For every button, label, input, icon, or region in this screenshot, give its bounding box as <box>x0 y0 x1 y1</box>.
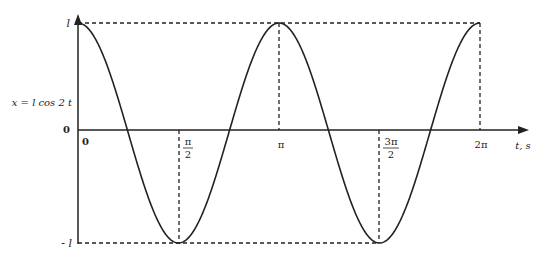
tick-pi-half-den: 2 <box>185 149 191 160</box>
tick-pi-label: π <box>278 139 285 150</box>
dashed-guides <box>78 23 480 243</box>
y-top-label: l <box>66 17 70 30</box>
origin-label: 0 <box>82 136 89 147</box>
tick-two-pi-label: 2π <box>475 139 488 150</box>
x-axis-title: t, s <box>515 140 531 151</box>
x-axis-arrow-icon <box>518 126 529 134</box>
y-bottom-label: - l <box>61 237 72 250</box>
cosine-chart: l 0 - l x = l cos 2 t 0 π 2 π 3π 2 2π t,… <box>0 0 551 260</box>
tick-three-pi-half-num: 3π <box>385 136 398 147</box>
tick-pi-half-num: π <box>185 136 192 147</box>
y-axis-title: x = l cos 2 t <box>12 97 73 108</box>
axes <box>78 22 520 244</box>
y-zero-label: 0 <box>63 124 70 135</box>
tick-three-pi-half-den: 2 <box>388 149 394 160</box>
cosine-curve <box>78 23 480 243</box>
